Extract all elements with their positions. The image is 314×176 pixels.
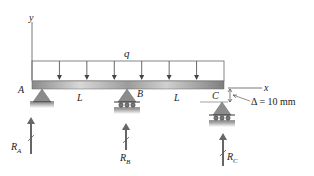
- settlement-label: Δ = 10 mm: [251, 96, 296, 107]
- load-arrowhead-icon: [84, 75, 89, 80]
- support-c-label: C: [212, 90, 219, 101]
- reaction-c: RC: [219, 133, 238, 166]
- load-arrowhead-icon: [112, 75, 117, 80]
- support-a-label: A: [17, 84, 25, 95]
- y-axis: y: [28, 12, 34, 80]
- load-outline: [32, 61, 224, 81]
- roller-support-icon: [213, 102, 231, 115]
- roller-support-icon: [118, 89, 136, 102]
- beam-diagram: y q x A B C: [0, 0, 314, 176]
- load-label: q: [124, 47, 130, 59]
- span-bc-label: L: [173, 92, 180, 103]
- ground-hatch: [114, 109, 140, 114]
- support-b-label: B: [137, 88, 143, 99]
- load-arrowhead-icon: [167, 75, 172, 80]
- reaction-c-label: RC: [226, 151, 238, 165]
- load-arrows: [57, 61, 199, 80]
- x-axis: x: [228, 82, 269, 93]
- y-axis-label: y: [28, 12, 34, 23]
- settlement-dimension: Δ = 10 mm: [228, 89, 296, 107]
- ground-hatch: [209, 122, 235, 127]
- reaction-b-label: RB: [119, 152, 131, 166]
- distributed-load: q: [32, 47, 224, 81]
- pin-support-icon: [33, 89, 51, 102]
- span-ab-label: L: [76, 92, 83, 103]
- reaction-b: RB: [119, 123, 131, 166]
- load-arrowhead-icon: [194, 75, 199, 80]
- load-arrowhead-icon: [139, 75, 144, 80]
- leader-line: [233, 95, 250, 101]
- load-arrowhead-icon: [57, 75, 62, 80]
- support-b: B: [114, 88, 143, 114]
- beam: [32, 81, 224, 89]
- reaction-a-label: RA: [10, 141, 22, 155]
- ground-hatch: [30, 103, 54, 108]
- reaction-a: RA: [10, 117, 35, 155]
- x-axis-label: x: [263, 82, 269, 93]
